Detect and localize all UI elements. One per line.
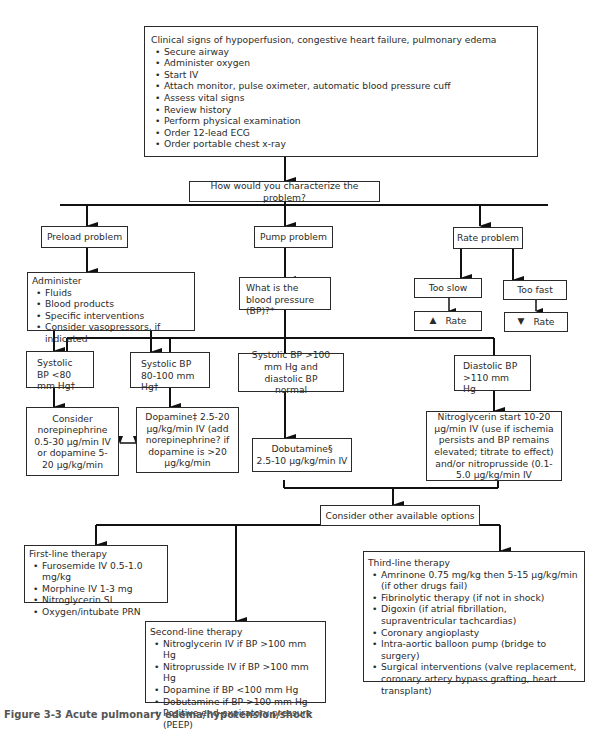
question-box: How would you characterize the problem? [189, 181, 380, 202]
list-item: Surgical interventions (valve replacemen… [368, 661, 580, 696]
sbp-high-box: Systolic BP >100 mm Hg and diastolic BP … [238, 353, 344, 392]
list-item: Fluids [32, 287, 190, 299]
list-item: Oxygen/intubate PRN [29, 606, 163, 618]
figure-caption: Figure 3-3 Acute pulmonary edema/hypoten… [4, 709, 312, 720]
first-line-title: First-line therapy [29, 548, 163, 560]
list-item: Fibrinolytic therapy (if not in shock) [368, 592, 580, 604]
list-item: Dopamine if BP <100 mm Hg [150, 684, 321, 696]
sbp-low-box: Systolic BP <80 mm Hg† [26, 351, 94, 388]
increase-rate-label: Rate [445, 315, 466, 327]
down-arrow-icon: ▼ [518, 316, 525, 328]
list-item: Furosemide IV 0.5-1.0 mg/kg [29, 560, 163, 583]
list-item: Perform physical examination [151, 115, 531, 127]
list-item: Order portable chest x-ray [151, 138, 531, 150]
dbp-high-box: Diastolic BP >110 mm Hg [454, 355, 531, 391]
list-item: Nitroglycerin SL [29, 594, 163, 606]
third-line-title: Third-line therapy [368, 557, 580, 569]
administer-list: Fluids Blood products Specific intervent… [32, 287, 190, 345]
decrease-rate-box: ▼ Rate [504, 312, 568, 332]
list-item: Review history [151, 104, 531, 116]
list-item: Secure airway [151, 46, 531, 58]
list-item: Nitroglycerin IV if BP >100 mm Hg [150, 638, 321, 661]
initial-assessment-box: Clinical signs of hypoperfusion, congest… [144, 26, 538, 157]
rate-problem-box: Rate problem [453, 227, 523, 249]
list-item: Specific interventions [32, 310, 190, 322]
pump-problem-box: Pump problem [254, 226, 333, 248]
first-line-list: Furosemide IV 0.5-1.0 mg/kg Morphine IV … [29, 560, 163, 618]
nitroglycerin-box: Nitroglycerin start 10-20 µg/min IV (use… [426, 411, 562, 481]
list-item: Dobutamine if BP >100 mm Hg [150, 696, 321, 708]
list-item: Consider vasopressors, if indicated [32, 321, 190, 344]
list-item: Digoxin (if atrial fibrillation, suprave… [368, 603, 580, 626]
list-item: Morphine IV 1-3 mg [29, 583, 163, 595]
bp-question-box: What is the blood pressure (BP)?* [239, 277, 331, 310]
initial-assessment-title: Clinical signs of hypoperfusion, congest… [151, 34, 531, 46]
first-line-therapy-box: First-line therapy Furosemide IV 0.5-1.0… [24, 545, 168, 603]
initial-assessment-list: Secure airway Administer oxygen Start IV… [151, 46, 531, 150]
sbp-mid-box: Systolic BP 80-100 mm Hg† [130, 352, 210, 388]
list-item: Coronary angioplasty [368, 627, 580, 639]
dobutamine-dose: 2.5-10 µg/kg/min IV [257, 455, 348, 467]
list-item: Attach monitor, pulse oximeter, automati… [151, 80, 531, 92]
decrease-rate-label: Rate [533, 316, 554, 328]
increase-rate-box: ▲ Rate [414, 311, 482, 331]
list-item: Blood products [32, 298, 190, 310]
third-line-list: Amrinone 0.75 mg/kg then 5-15 µg/kg/min … [368, 569, 580, 697]
preload-problem-box: Preload problem [41, 226, 128, 248]
list-item: Order 12-lead ECG [151, 127, 531, 139]
dobutamine-name: Dobutamine§ [271, 443, 332, 455]
list-item: Assess vital signs [151, 92, 531, 104]
list-item: Amrinone 0.75 mg/kg then 5-15 µg/kg/min … [368, 569, 580, 592]
up-arrow-icon: ▲ [430, 315, 437, 327]
list-item: Start IV [151, 69, 531, 81]
too-fast-box: Too fast [503, 280, 567, 300]
dopamine-box: Dopamine‡ 2.5-20 µg/kg/min IV (add norep… [136, 407, 239, 473]
second-line-title: Second-line therapy [150, 626, 321, 638]
list-item: Nitroprusside IV if BP >100 mm Hg [150, 661, 321, 684]
list-item: Administer oxygen [151, 57, 531, 69]
list-item: Intra-aortic balloon pump (bridge to sur… [368, 638, 580, 661]
administer-box: Administer Fluids Blood products Specifi… [27, 272, 195, 331]
norepinephrine-box: Consider norepinephrine 0.5-30 µg/min IV… [26, 407, 119, 476]
dobutamine-box: Dobutamine§ 2.5-10 µg/kg/min IV [252, 438, 352, 472]
administer-title: Administer [32, 275, 190, 287]
other-options-box: Consider other available options [320, 505, 480, 526]
second-line-therapy-box: Second-line therapy Nitroglycerin IV if … [145, 621, 326, 703]
too-slow-box: Too slow [414, 278, 482, 298]
third-line-therapy-box: Third-line therapy Amrinone 0.75 mg/kg t… [363, 551, 585, 682]
